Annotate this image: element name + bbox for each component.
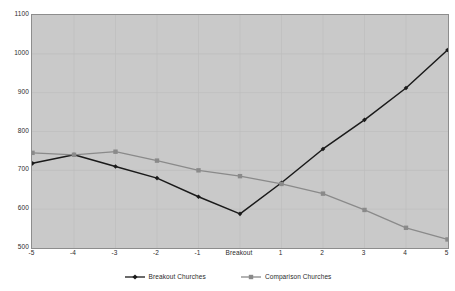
data-point-marker	[196, 194, 201, 199]
x-axis-tick-label: -3	[112, 250, 118, 257]
x-axis-tick-label: 4	[403, 250, 407, 257]
x-axis-tick-label: -2	[153, 250, 159, 257]
data-point-marker	[321, 191, 325, 195]
data-point-marker	[155, 158, 159, 162]
y-axis-tick-label: 800	[3, 127, 29, 134]
chart-legend: Breakout ChurchesComparison Churches	[0, 268, 455, 286]
data-point-marker	[32, 151, 35, 155]
x-axis: -5-4-3-2-1Breakout12345	[31, 250, 447, 264]
data-point-marker	[445, 237, 448, 241]
x-axis-tick-label: 2	[320, 250, 324, 257]
x-axis-tick-label: -5	[29, 250, 35, 257]
y-axis-tick-label: 1100	[3, 11, 29, 18]
legend-label: Breakout Churches	[149, 274, 206, 281]
legend-diamond-marker-icon	[124, 273, 146, 281]
plot-area	[31, 14, 449, 249]
data-point-marker	[32, 161, 35, 166]
x-axis-tick-label: -4	[70, 250, 76, 257]
legend-entry[interactable]: Comparison Churches	[240, 273, 332, 281]
y-axis-tick-label: 600	[3, 205, 29, 212]
data-point-marker	[238, 174, 242, 178]
legend-square-marker-icon	[240, 273, 262, 281]
legend-entry[interactable]: Breakout Churches	[124, 273, 206, 281]
data-point-marker	[279, 182, 283, 186]
line-chart: 11001000900800700600500 -5-4-3-2-1Breako…	[0, 0, 455, 291]
y-axis-tick-label: 900	[3, 88, 29, 95]
data-point-marker	[196, 168, 200, 172]
data-point-marker	[113, 149, 117, 153]
data-point-marker	[113, 164, 118, 169]
x-axis-tick-label: Breakout	[226, 250, 253, 257]
x-axis-tick-label: -1	[195, 250, 201, 257]
y-axis: 11001000900800700600500	[0, 0, 29, 291]
y-axis-tick-label: 500	[3, 244, 29, 251]
plot-svg	[32, 15, 448, 248]
data-point-marker	[155, 176, 160, 181]
data-point-marker	[362, 208, 366, 212]
legend-label: Comparison Churches	[265, 274, 332, 281]
y-axis-tick-label: 1000	[3, 50, 29, 57]
data-point-marker	[72, 153, 76, 157]
x-axis-tick-label: 1	[279, 250, 283, 257]
y-axis-tick-label: 700	[3, 166, 29, 173]
x-axis-tick-label: 3	[362, 250, 366, 257]
x-axis-tick-label: 5	[445, 250, 449, 257]
data-point-marker	[404, 226, 408, 230]
